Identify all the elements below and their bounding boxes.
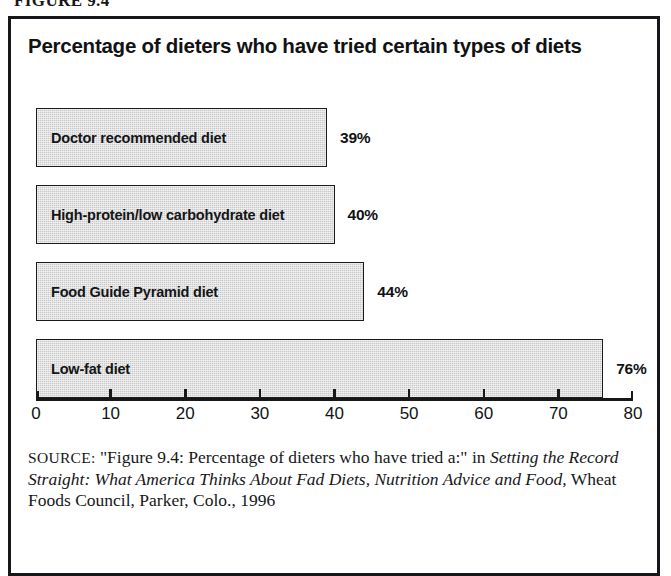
source-quoted-title: "Figure 9.4: Percentage of dieters who h… <box>100 447 486 467</box>
source-year: 1996 <box>240 490 275 510</box>
chart-title: Percentage of dieters who have tried cer… <box>28 34 582 58</box>
figure-caption: FIGURE 9.4 <box>14 0 110 11</box>
source-note: SOURCE: "Figure 9.4: Percentage of diete… <box>28 447 636 512</box>
source-label: SOURCE: <box>28 449 96 466</box>
